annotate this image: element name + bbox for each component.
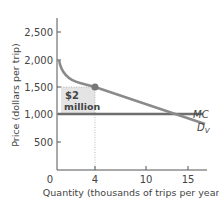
x-tick: 0 xyxy=(47,174,53,185)
y-tick: 1,000 xyxy=(24,109,53,120)
x-tick: 4 xyxy=(92,174,98,185)
x-tick: 15 xyxy=(182,174,195,185)
area-label-unit: million xyxy=(64,101,100,112)
area-label-value: $2 xyxy=(65,90,79,101)
x-axis-label: Quantity (thousands of trips per year) xyxy=(43,187,219,198)
equilibrium-point xyxy=(92,84,99,91)
y-tick: 1,500 xyxy=(24,82,53,93)
demand-label: DV xyxy=(197,122,211,135)
mc-label: MC xyxy=(193,109,209,120)
y-tick: 2,000 xyxy=(24,55,53,66)
x-tick: 10 xyxy=(140,174,153,185)
chart: 2,500 2,000 1,500 1,000 500 0 4 10 15 Qu… xyxy=(0,0,219,208)
y-tick: 500 xyxy=(34,137,53,148)
y-tick: 2,500 xyxy=(24,27,53,38)
y-axis-label: Price (dollars per trip) xyxy=(10,43,21,147)
